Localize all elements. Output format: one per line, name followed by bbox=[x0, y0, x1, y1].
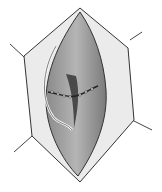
surgical-illustration bbox=[0, 0, 162, 192]
